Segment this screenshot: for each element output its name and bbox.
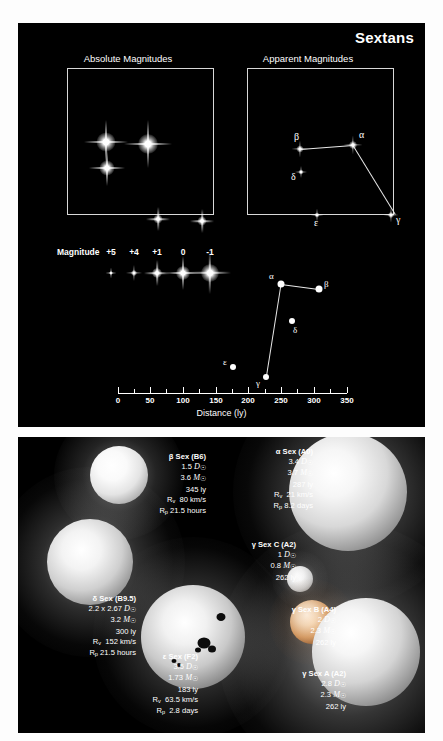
star-data-alpha: α Sex (A0) 3.4 D☉ 3.7 M☉ 287 ly Rv 21 km… bbox=[193, 447, 313, 512]
star-rp-alpha: Rp 8.2 days bbox=[193, 501, 313, 512]
star-rv-delta: Rv 152 km/s bbox=[18, 637, 136, 648]
star-name-alpha: α Sex (A0) bbox=[193, 447, 313, 457]
label-app-epsilon: ε bbox=[314, 217, 318, 228]
apparent-magnitudes-box bbox=[247, 68, 394, 215]
axis-minor-tick bbox=[297, 389, 298, 393]
label-dist-beta: β bbox=[324, 279, 329, 289]
dot-dist-gamma bbox=[263, 374, 269, 380]
label-app-gamma: γ bbox=[396, 214, 400, 225]
axis-tick-label-0: 0 bbox=[106, 396, 130, 405]
absolute-magnitudes-label: Absolute Magnitudes bbox=[53, 53, 203, 64]
magnitude-tick-0: +5 bbox=[103, 247, 119, 257]
star-diameter-beta: 1.5 D☉ bbox=[76, 462, 206, 473]
page-title: Sextans bbox=[355, 29, 414, 46]
line-dist-alpha-beta bbox=[281, 284, 319, 290]
axis-major-tick bbox=[216, 387, 217, 393]
star-mass-gamma-c: 0.8 M☉ bbox=[186, 561, 296, 572]
axis-tick-label-7: 350 bbox=[335, 396, 359, 405]
star-data-delta: δ Sex (B9.5) 2.2 x 2.67 D☉ 3.2 M☉ 300 ly… bbox=[18, 594, 136, 659]
label-dist-gamma: γ bbox=[256, 378, 260, 388]
axis-minor-tick bbox=[330, 389, 331, 393]
star-distance-gamma-c: 262 ly bbox=[186, 573, 296, 583]
star-name-gamma-c: γ Sex C (A2) bbox=[186, 540, 296, 550]
star-name-epsilon: ε Sex (F2) bbox=[80, 652, 198, 662]
line-dist-alpha-gamma bbox=[266, 284, 282, 377]
star-diameter-epsilon: 3.5 D☉ bbox=[80, 662, 198, 673]
star-data-beta: β Sex (B6) 1.5 D☉ 3.6 M☉ 345 ly Rv 80 km… bbox=[76, 452, 206, 517]
axis-tick-label-5: 250 bbox=[269, 396, 293, 405]
axis-major-tick bbox=[281, 387, 282, 393]
axis-tick-label-6: 300 bbox=[302, 396, 326, 405]
star-distance-gamma-a: 262 ly bbox=[236, 702, 346, 712]
axis-minor-tick bbox=[265, 389, 266, 393]
axis-major-tick bbox=[150, 387, 151, 393]
axis-tick-label-1: 50 bbox=[138, 396, 162, 405]
star-rp-beta: Rp 21.5 hours bbox=[76, 506, 206, 517]
star-data-gamma-a: γ Sex A (A2) 2.8 D☉ 2.3 M☉ 262 ly bbox=[236, 669, 346, 712]
star-mass-gamma-a: 2.3 M☉ bbox=[236, 690, 346, 701]
axis-tick-label-3: 150 bbox=[204, 396, 228, 405]
label-app-beta: β bbox=[294, 131, 299, 142]
star-mass-epsilon: 1.73 M☉ bbox=[80, 673, 198, 684]
star-mass-gamma-b: 2.3 M☉ bbox=[226, 626, 336, 637]
star-rp-epsilon: Rp 2.8 days bbox=[80, 706, 198, 717]
star-diameter-gamma-c: 1 D☉ bbox=[186, 550, 296, 561]
star-mass-alpha: 3.7 M☉ bbox=[193, 468, 313, 479]
star-rv-beta: Rv 80 km/s bbox=[76, 495, 206, 506]
axis-tick-label-2: 100 bbox=[171, 396, 195, 405]
magnitude-tick-2: +1 bbox=[149, 247, 165, 257]
star-rv-epsilon: Rv 63.5 km/s bbox=[80, 695, 198, 706]
distance-axis-caption: Distance (ly) bbox=[18, 408, 425, 418]
star-distance-alpha: 287 ly bbox=[193, 480, 313, 490]
axis-tick-label-4: 200 bbox=[236, 396, 260, 405]
axis-major-tick bbox=[248, 387, 249, 393]
star-distance-beta: 345 ly bbox=[76, 485, 206, 495]
axis-major-tick bbox=[183, 387, 184, 393]
star-distance-epsilon: 183 ly bbox=[80, 685, 198, 695]
star-diameter-gamma-b: 2 D☉ bbox=[226, 615, 336, 626]
label-dist-delta: δ bbox=[293, 325, 297, 335]
star-data-epsilon: ε Sex (F2) 3.5 D☉ 1.73 M☉ 183 ly Rv 63.5… bbox=[80, 652, 198, 717]
star-name-gamma-b: γ Sex B (A4) bbox=[226, 605, 336, 615]
figure-root: Sextans Absolute Magnitudes bbox=[0, 0, 443, 741]
dot-dist-epsilon bbox=[230, 364, 236, 370]
sphere-delta bbox=[47, 519, 133, 605]
axis-minor-tick bbox=[199, 389, 200, 393]
starspot bbox=[208, 646, 216, 653]
axis-minor-tick bbox=[232, 389, 233, 393]
star-comparison-panel: β Sex (B6) 1.5 D☉ 3.6 M☉ 345 ly Rv 80 km… bbox=[18, 437, 425, 733]
star-distance-gamma-b: 262 ly bbox=[226, 638, 336, 648]
star-name-delta: δ Sex (B9.5) bbox=[18, 594, 136, 604]
label-dist-epsilon: ε bbox=[223, 357, 227, 367]
star-diameter-gamma-a: 2.8 D☉ bbox=[236, 679, 346, 690]
label-dist-alpha: α bbox=[269, 271, 274, 281]
star-mass-delta: 3.2 M☉ bbox=[18, 615, 136, 626]
star-distance-delta: 300 ly bbox=[18, 627, 136, 637]
dot-dist-delta bbox=[289, 318, 295, 324]
apparent-magnitudes-label: Apparent Magnitudes bbox=[233, 53, 383, 64]
distance-axis-line bbox=[118, 393, 347, 394]
magnitude-tick-1: +4 bbox=[126, 247, 142, 257]
star-diameter-alpha: 3.4 D☉ bbox=[193, 457, 313, 468]
axis-major-tick bbox=[118, 387, 119, 393]
magnitude-scale-label: Magnitude bbox=[57, 247, 100, 257]
star-name-gamma-a: γ Sex A (A2) bbox=[236, 669, 346, 679]
starspot bbox=[217, 613, 226, 621]
dot-dist-beta bbox=[316, 286, 323, 293]
label-app-delta: δ bbox=[291, 171, 296, 182]
dot-dist-alpha bbox=[278, 281, 285, 288]
axis-major-tick bbox=[347, 387, 348, 393]
label-app-alpha: α bbox=[359, 129, 364, 140]
star-diameter-delta: 2.2 x 2.67 D☉ bbox=[18, 604, 136, 615]
star-data-gamma-b: γ Sex B (A4) 2 D☉ 2.3 M☉ 262 ly bbox=[226, 605, 336, 648]
star-data-gamma-c: γ Sex C (A2) 1 D☉ 0.8 M☉ 262 ly bbox=[186, 540, 296, 583]
constellation-chart-panel: Sextans Absolute Magnitudes bbox=[18, 23, 425, 427]
axis-minor-tick bbox=[134, 389, 135, 393]
axis-minor-tick bbox=[166, 389, 167, 393]
star-name-beta: β Sex (B6) bbox=[76, 452, 206, 462]
star-rv-alpha: Rv 21 km/s bbox=[193, 490, 313, 501]
axis-major-tick bbox=[314, 387, 315, 393]
star-mass-beta: 3.6 M☉ bbox=[76, 473, 206, 484]
